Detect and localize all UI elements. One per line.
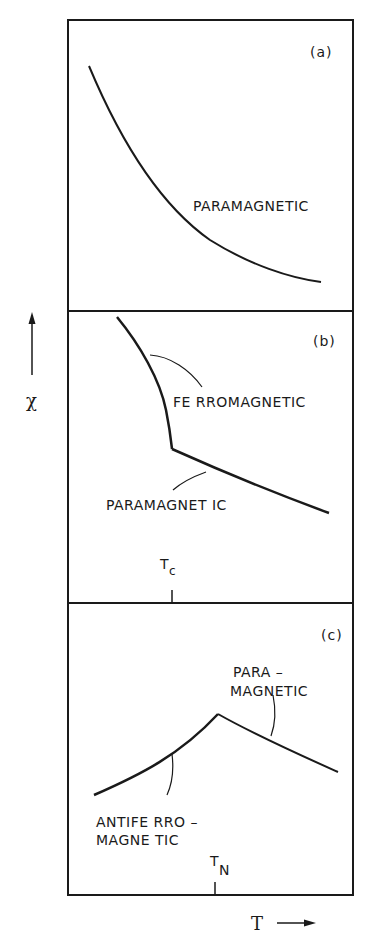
para-label-line2: MAGNETIC: [230, 683, 308, 699]
panel-c-tag: (c): [321, 627, 343, 643]
up-arrow-icon: [29, 312, 36, 324]
panel-c: (c) PARA – MAGNETIC ANTIFE RRO – MAGNE T…: [94, 627, 343, 895]
paramagnetic-label-b: PARAMAGNET IC: [106, 497, 227, 513]
panel-frames: [68, 20, 353, 895]
x-axis-indicator: T: [251, 913, 316, 934]
ferromagnetic-label: FE RROMAGNETIC: [173, 394, 306, 410]
paramagnetic-curve-a: [89, 66, 321, 282]
panel-b-tag: (b): [313, 333, 336, 349]
tn-label: TN: [209, 853, 230, 878]
para-label-line1: PARA –: [233, 664, 283, 680]
paramagnetic-label-a: PARAMAGNETIC: [193, 198, 309, 214]
antiferromagnetic-curve: [94, 714, 218, 795]
tc-label: Tc: [159, 556, 176, 578]
right-arrow-icon: [304, 920, 316, 927]
y-axis-label: χ: [26, 390, 37, 411]
x-axis-label: T: [251, 913, 263, 934]
panel-a: (a) PARAMAGNETIC: [89, 44, 333, 282]
y-axis-indicator: χ: [26, 312, 37, 411]
paramagnetic-curve-c: [218, 714, 338, 772]
ferromagnetic-curve: [117, 317, 172, 449]
para-leader-line-c: [271, 695, 275, 736]
afm-label-line1: ANTIFE RRO –: [96, 814, 198, 830]
para-leader-line-b: [173, 472, 206, 490]
magnetic-susceptibility-figure: (a) PARAMAGNETIC (b) FE RROMAGNETIC PARA…: [0, 0, 372, 944]
afm-leader-line: [167, 754, 173, 795]
panel-a-tag: (a): [310, 44, 333, 60]
panel-b: (b) FE RROMAGNETIC PARAMAGNET IC Tc: [106, 317, 336, 603]
afm-label-line2: MAGNE TIC: [96, 832, 179, 848]
